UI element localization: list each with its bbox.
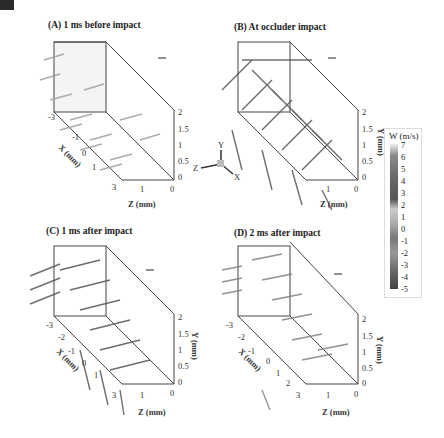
svg-text:1.5: 1.5	[178, 329, 189, 339]
colorbar: W (m/s) 7 6 5 4 3 2 1 0 -1 -2 -3 -4 -5	[384, 128, 422, 298]
svg-text:0: 0	[82, 358, 86, 368]
colorbar-tick: -4	[401, 272, 408, 282]
svg-text:3: 3	[296, 390, 300, 400]
colorbar-tick: 0	[401, 224, 405, 234]
svg-text:1.5: 1.5	[178, 124, 189, 134]
svg-text:1: 1	[92, 162, 96, 172]
svg-text:0: 0	[82, 148, 86, 158]
svg-text:1: 1	[326, 390, 330, 400]
svg-text:1.5: 1.5	[362, 331, 373, 341]
svg-text:1: 1	[140, 390, 144, 400]
svg-text:1: 1	[94, 370, 98, 380]
svg-text:1: 1	[140, 184, 144, 194]
y-axis-label: Y (mm)	[375, 336, 385, 364]
svg-text:0: 0	[170, 388, 174, 398]
panel-a: (A) 1 ms before impact 21.5 10.50 01 -3-…	[0, 0, 222, 220]
svg-text:0.5: 0.5	[362, 363, 373, 373]
colorbar-tick: -2	[401, 248, 408, 258]
box-plot: 21.5 10.50 01 -3-10 13 X (mm) Z (mm)	[0, 0, 222, 220]
svg-text:-2: -2	[58, 332, 65, 342]
svg-text:0.5: 0.5	[178, 156, 189, 166]
colorbar-tick: 7	[401, 140, 405, 150]
colorbar-tick: 5	[401, 164, 405, 174]
svg-text:2: 2	[362, 314, 366, 324]
svg-text:-3: -3	[226, 320, 233, 330]
z-axis-label: Z (mm)	[320, 199, 348, 209]
svg-text:1: 1	[362, 347, 366, 357]
svg-text:2: 2	[362, 107, 366, 117]
svg-text:2: 2	[286, 378, 290, 388]
svg-text:0: 0	[362, 378, 366, 388]
svg-text:0: 0	[178, 377, 182, 387]
colorbar-tick: 3	[401, 188, 405, 198]
svg-text:0: 0	[362, 172, 366, 182]
svg-text:0: 0	[178, 172, 182, 182]
svg-text:1: 1	[178, 140, 182, 150]
colorbar-tick: -3	[401, 260, 408, 270]
svg-text:1.5: 1.5	[362, 124, 373, 134]
svg-text:0: 0	[170, 184, 174, 194]
colorbar-gradient	[390, 144, 398, 289]
panel-c: (C) 1 ms after impact 21.5 10.50 01 -3-2…	[0, 220, 222, 438]
box-plot: 21.5 10.50 01 -3-2-1 013 X (mm) Y (mm) Z…	[0, 220, 222, 438]
svg-text:3: 3	[112, 182, 116, 192]
svg-text:1: 1	[276, 368, 280, 378]
colorbar-tick: 4	[401, 176, 405, 186]
colorbar-tick: -1	[401, 236, 408, 246]
svg-text:3: 3	[112, 390, 116, 400]
colorbar-tick: 6	[401, 152, 405, 162]
z-axis-label: Z (mm)	[128, 199, 156, 209]
svg-text:0: 0	[354, 389, 358, 399]
svg-text:1: 1	[326, 184, 330, 194]
svg-text:0: 0	[266, 356, 270, 366]
svg-text:1: 1	[178, 345, 182, 355]
svg-text:2: 2	[178, 312, 182, 322]
colorbar-tick: -5	[401, 284, 408, 294]
colorbar-tick: 2	[401, 200, 405, 210]
y-axis-label: Y (mm)	[190, 332, 200, 360]
colorbar-tick: 1	[401, 212, 405, 222]
z-axis-label: Z (mm)	[138, 407, 166, 417]
svg-text:1: 1	[362, 140, 366, 150]
x-axis-label: X (mm)	[57, 142, 84, 169]
svg-text:0: 0	[354, 184, 358, 194]
svg-text:-3: -3	[48, 112, 55, 122]
svg-text:-3: -3	[46, 320, 53, 330]
svg-text:0.5: 0.5	[178, 361, 189, 371]
svg-text:0.5: 0.5	[362, 156, 373, 166]
z-axis-label: Z (mm)	[322, 407, 350, 417]
svg-text:-1: -1	[72, 132, 79, 142]
svg-text:2: 2	[178, 107, 182, 117]
svg-text:-2: -2	[238, 332, 245, 342]
